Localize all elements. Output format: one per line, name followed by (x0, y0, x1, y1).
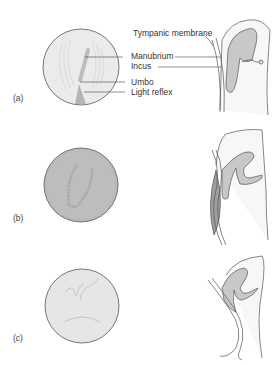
label-incus: Incus (131, 62, 151, 71)
panel-label-b: (b) (13, 214, 23, 223)
panel-c-eardrum (45, 269, 119, 343)
panel-label-a: (a) (13, 94, 23, 103)
label-light-reflex: Light reflex (131, 88, 173, 97)
panel-b-eardrum (44, 148, 118, 222)
label-tympanic-membrane: Tympanic membrane (133, 29, 212, 38)
panel-c-cross-section (208, 256, 264, 360)
panel-a-cross-section (212, 20, 270, 115)
panel-label-c: (c) (13, 334, 23, 343)
panel-b-cross-section (210, 130, 268, 246)
label-manubrium: Manubrium (131, 52, 174, 61)
label-umbo: Umbo (131, 78, 154, 87)
